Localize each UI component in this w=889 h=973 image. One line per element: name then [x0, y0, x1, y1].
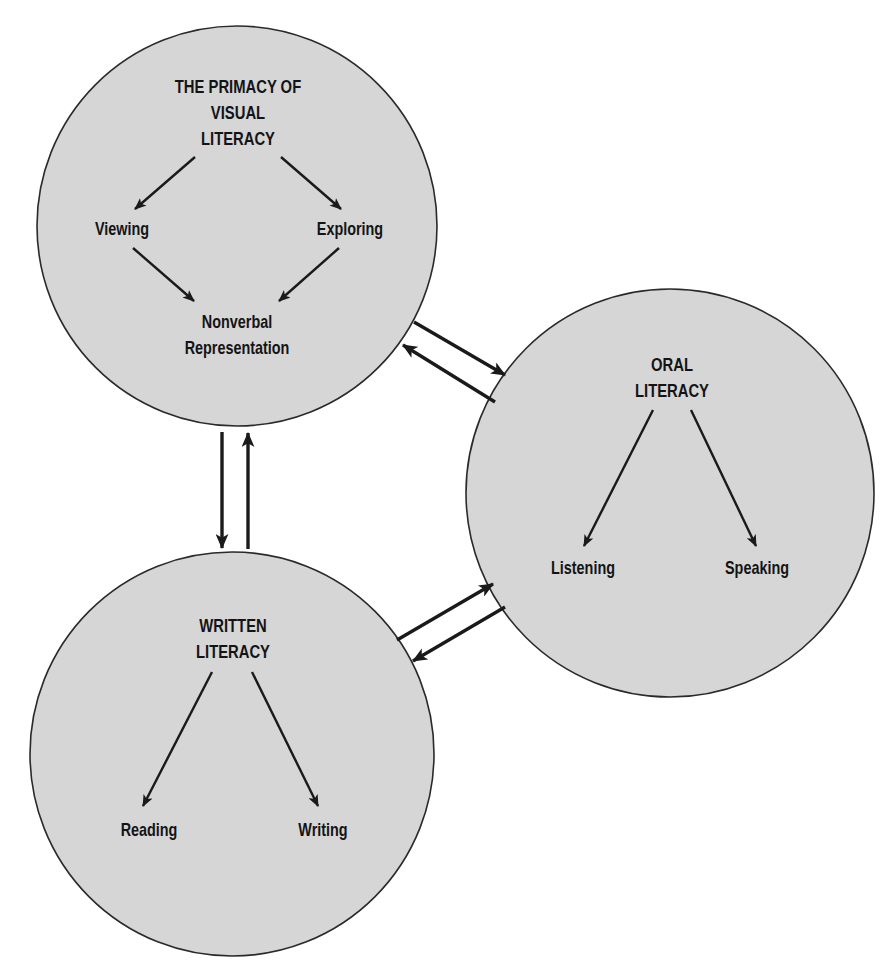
arrow-oral-to-written [413, 607, 505, 661]
node-speaking: Speaking [725, 557, 789, 577]
node-nonverbal-line-2: Representation [185, 337, 290, 357]
visual-title-line-3: LITERACY [201, 128, 276, 149]
written-title-line-2: LITERACY [196, 641, 271, 662]
oral-literacy-circle [466, 289, 874, 697]
node-writing: Writing [298, 819, 347, 839]
arrow-visual-to-oral [414, 322, 505, 375]
written-literacy-circle [30, 552, 434, 956]
node-nonverbal-line-1: Nonverbal [202, 311, 272, 331]
literacy-diagram: THE PRIMACY OF VISUAL LITERACY Viewing E… [0, 0, 889, 973]
oral-title-line-1: ORAL [651, 354, 693, 375]
node-listening: Listening [551, 557, 615, 577]
arrow-oral-to-visual [403, 345, 495, 402]
visual-title-line-2: VISUAL [211, 102, 265, 123]
arrow-written-to-oral [397, 584, 493, 640]
node-reading: Reading [121, 819, 178, 839]
node-exploring: Exploring [317, 218, 383, 238]
visual-title-line-1: THE PRIMACY OF [175, 76, 301, 97]
node-viewing: Viewing [95, 218, 149, 238]
written-title-line-1: WRITTEN [199, 615, 266, 636]
oral-title-line-2: LITERACY [635, 380, 710, 401]
